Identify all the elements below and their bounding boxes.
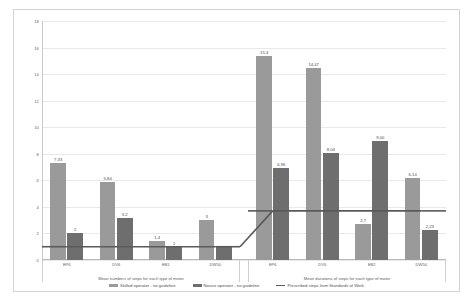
- category-label: DV6: [112, 262, 120, 267]
- category-label: DV6: [318, 262, 326, 267]
- category-label: EB1: [162, 262, 170, 267]
- bar-value-label: 8,03: [327, 147, 335, 152]
- legend-line-swatch: [276, 285, 285, 286]
- panel-title: Mean numbers of steps for each type of m…: [98, 276, 184, 281]
- legend-label: Skilled operator - no guideline: [120, 283, 175, 288]
- gridline: [42, 21, 446, 22]
- chart-container: 024681012141618 7,3325,843,21,41315,46,9…: [13, 9, 460, 292]
- category-label: EB2: [368, 262, 376, 267]
- bar-value-label: 2: [74, 227, 76, 232]
- bar[interactable]: 3,2: [117, 218, 133, 260]
- gridline: [42, 74, 446, 75]
- legend-color-swatch: [193, 284, 202, 287]
- bar-value-label: 14,47: [308, 62, 318, 67]
- legend-color-swatch: [109, 284, 118, 287]
- bar-value-label: 5,84: [104, 176, 112, 181]
- bar-value-label: 15,4: [260, 50, 268, 55]
- bar[interactable]: 9,00: [372, 141, 388, 261]
- legend-item[interactable]: Skilled operator - no guideline: [109, 283, 175, 288]
- bar[interactable]: 2: [67, 233, 83, 260]
- bar[interactable]: 5,84: [100, 182, 116, 260]
- bar-value-label: 7,33: [54, 157, 62, 162]
- bar[interactable]: 2,23: [422, 230, 438, 260]
- y-axis-tick-label: 6: [37, 178, 39, 183]
- y-axis-tick-label: 12: [34, 98, 39, 103]
- category-label: EP6: [63, 262, 71, 267]
- category-label: EP6: [269, 262, 277, 267]
- bar-value-label: 2,7: [360, 218, 366, 223]
- bar-value-label: 6,96: [277, 162, 285, 167]
- y-axis-tick-label: 18: [34, 19, 39, 24]
- y-axis-tick-label: 8: [37, 151, 39, 156]
- bar[interactable]: 15,4: [256, 56, 272, 260]
- category-axis: Mean numbers of steps for each type of m…: [42, 260, 446, 282]
- legend-label: Prescribed steps from Standards of Work: [287, 283, 364, 288]
- bar[interactable]: 8,03: [323, 153, 339, 260]
- y-axis-tick-label: 10: [34, 125, 39, 130]
- category-label: DW50: [210, 262, 221, 267]
- bar-value-label: 1,4: [154, 235, 160, 240]
- y-axis-line: [42, 21, 43, 260]
- y-axis-tick-label: 2: [37, 231, 39, 236]
- y-axis-tick-label: 16: [34, 45, 39, 50]
- gridline: [42, 48, 446, 49]
- y-axis-tick-label: 14: [34, 72, 39, 77]
- gridline: [42, 101, 446, 102]
- legend-label: Novice operator - no guideline: [204, 283, 260, 288]
- bar-value-label: 3: [206, 214, 208, 219]
- y-axis-tick-label: 4: [37, 204, 39, 209]
- panel-title: Mean durations of steps for each type of…: [304, 276, 391, 281]
- plot-area: 024681012141618 7,3325,843,21,41315,46,9…: [42, 21, 446, 260]
- bar[interactable]: 1: [166, 247, 182, 260]
- legend-item[interactable]: Prescribed steps from Standards of Work: [276, 283, 364, 288]
- bar-value-label: 2,23: [426, 224, 434, 229]
- bar[interactable]: 1,4: [149, 241, 165, 260]
- bar[interactable]: 6,14: [405, 178, 421, 260]
- bar[interactable]: [216, 247, 232, 260]
- bar-value-label: 3,2: [122, 212, 128, 217]
- bar[interactable]: 3: [199, 220, 215, 260]
- legend-item[interactable]: Novice operator - no guideline: [193, 283, 260, 288]
- bar[interactable]: 7,33: [50, 163, 66, 260]
- bar-value-label: 9,00: [376, 135, 384, 140]
- bar-value-label: 6,14: [409, 172, 417, 177]
- category-label: DW50: [416, 262, 427, 267]
- gridline: [42, 127, 446, 128]
- bar[interactable]: 14,47: [306, 68, 322, 260]
- bar[interactable]: 6,96: [273, 168, 289, 260]
- bar[interactable]: 2,7: [355, 224, 371, 260]
- y-axis-tick-label: 0: [37, 258, 39, 263]
- bar-value-label: 1: [173, 241, 175, 246]
- chart-legend: Skilled operator - no guidelineNovice op…: [14, 283, 459, 288]
